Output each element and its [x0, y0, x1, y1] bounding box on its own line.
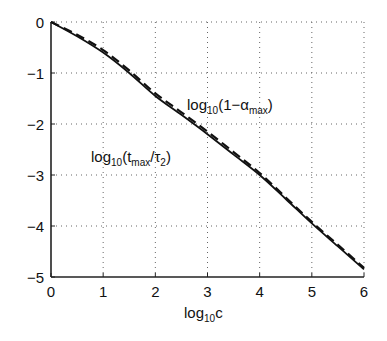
x-tick-label: 3 — [203, 283, 211, 300]
x-tick-label: 0 — [47, 283, 55, 300]
annotation-alpha-max: log10(1−αmax) — [187, 96, 273, 116]
y-tick-label: −1 — [27, 65, 44, 82]
y-tick-label: −2 — [27, 116, 44, 133]
x-tick-label: 6 — [360, 283, 368, 300]
y-tick-label: 0 — [36, 14, 44, 31]
x-tick-label: 4 — [255, 283, 263, 300]
x-tick-label: 5 — [308, 283, 316, 300]
x-axis-label: log10c — [184, 304, 223, 324]
x-tick-label: 2 — [151, 283, 159, 300]
y-tick-label: −5 — [27, 269, 44, 286]
series-alpha-max-line — [51, 22, 364, 268]
y-tick-label: −4 — [27, 218, 44, 235]
y-tick-labels: 0−1−2−3−4−5 — [27, 14, 44, 286]
x-tick-labels: 0123456 — [47, 283, 368, 300]
annotation-t-max: log10(tmax/τ2) — [91, 148, 171, 168]
x-tick-label: 1 — [99, 283, 107, 300]
line-chart: 0123456 0−1−2−3−4−5 log10(tmax/τ2) log10… — [0, 0, 387, 341]
y-tick-label: −3 — [27, 167, 44, 184]
